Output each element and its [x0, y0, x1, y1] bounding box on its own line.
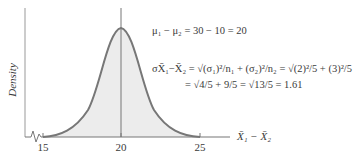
density-plot	[0, 0, 360, 160]
mean-difference-equation: μ₁ − μ₂ = 30 − 10 = 20	[152, 25, 247, 36]
x-tick-15: 15	[38, 141, 49, 153]
x-axis-label: X̄₁ − X̄₂	[237, 130, 271, 142]
x-tick-25: 25	[195, 141, 206, 153]
std-error-result: = √4/5 + 9/5 = √13/5 = 1.61	[185, 79, 302, 90]
x-tick-20: 20	[116, 141, 127, 153]
y-axis-label: Density	[6, 63, 18, 97]
std-error-equation: σX̄₁−X̄₂ = √(σ₁)²/n₁ + (σ₂)²/n₂ = √(2)²/…	[152, 63, 352, 74]
